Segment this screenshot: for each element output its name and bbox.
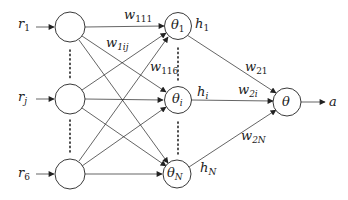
input-node-6 [55, 159, 85, 189]
svg-text:w2N: w2N [241, 128, 267, 145]
weight-label-w111: w [124, 7, 135, 22]
input-arrows [36, 27, 54, 174]
input-labels: r1 rj r6 [18, 16, 30, 182]
weight-label-w1ij: w [106, 35, 117, 50]
weight-label-w2i: w [238, 82, 249, 97]
svg-text:r1: r1 [18, 16, 30, 33]
output-label-a: a [329, 94, 337, 109]
svg-text:r6: r6 [18, 165, 30, 182]
weight-label-w21: w [245, 59, 256, 74]
layer2-weight-labels: w21 w2i w2N [238, 59, 268, 145]
neural-network-diagram: r1 rj r6 θ1 θi θN h1 hi hN w111 w1ij w11… [0, 0, 348, 200]
hidden-label-N: θ [167, 165, 175, 180]
h-label-1: h [195, 16, 203, 31]
svg-text:w21: w21 [245, 59, 268, 76]
svg-text:rj: rj [18, 89, 27, 106]
h-label-N: h [200, 160, 208, 175]
hidden-output-labels: h1 hi hN [195, 16, 217, 177]
hidden-label-1: θ [171, 17, 179, 32]
input-layer [55, 12, 85, 189]
svg-text:w116: w116 [150, 59, 179, 76]
svg-text:w1ij: w1ij [106, 35, 129, 52]
weight-label-w116: w [150, 59, 161, 74]
layer2-edges [187, 35, 325, 167]
input-node-j [55, 84, 85, 114]
hidden-label-i: θ [172, 91, 180, 106]
input-node-1 [55, 12, 85, 42]
svg-text:h1: h1 [195, 16, 209, 33]
output-node-label: θ [282, 94, 290, 109]
svg-text:hN: hN [200, 160, 217, 177]
h-label-i: h [197, 84, 205, 99]
weight-label-w2N: w [241, 128, 252, 143]
svg-text:w111: w111 [124, 7, 152, 24]
svg-text:w2i: w2i [238, 82, 258, 99]
svg-text:hi: hi [197, 84, 208, 101]
